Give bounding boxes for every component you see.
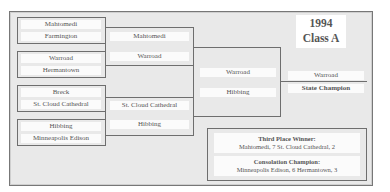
semifinal-team: Mahtomedi bbox=[110, 32, 189, 41]
round1-team: Breck bbox=[21, 88, 101, 97]
consolation-panel: Consolation Champion: Minneapolis Edison… bbox=[214, 156, 360, 176]
round1-team: Hermantown bbox=[21, 66, 101, 75]
round1-team: Farmington bbox=[21, 32, 101, 41]
final-team: Hibbing bbox=[200, 88, 276, 97]
third-place-result: Mahtomedi, 7 St. Cloud Cathedral, 2 bbox=[214, 143, 360, 151]
champion-line bbox=[281, 81, 367, 82]
final-match bbox=[193, 47, 281, 117]
third-place-label: Third Place Winner: bbox=[214, 135, 360, 143]
title-box: 1994 Class A bbox=[296, 15, 346, 48]
round1-team: Minneapolis Edison bbox=[21, 134, 101, 143]
results-box: Third Place Winner: Mahtomedi, 7 St. Clo… bbox=[207, 128, 367, 181]
champion-team: Warroad bbox=[288, 71, 364, 80]
third-place-panel: Third Place Winner: Mahtomedi, 7 St. Clo… bbox=[214, 133, 360, 153]
semifinal-team: Warroad bbox=[110, 52, 189, 61]
round1-team: Warroad bbox=[21, 54, 101, 63]
title-year: 1994 bbox=[296, 16, 346, 31]
title-class: Class A bbox=[296, 31, 346, 46]
round1-team: St. Cloud Cathedral bbox=[21, 100, 101, 109]
semifinal-team: Hibbing bbox=[110, 120, 189, 129]
semifinal-team: St. Cloud Cathedral bbox=[110, 101, 189, 110]
consolation-label: Consolation Champion: bbox=[214, 158, 360, 166]
consolation-result: Minneapolis Edison, 6 Hermantown, 3 bbox=[214, 166, 360, 174]
champion-label: State Champion bbox=[288, 84, 364, 93]
round1-team: Hibbing bbox=[21, 122, 101, 131]
round1-team: Mahtomedi bbox=[21, 20, 101, 29]
final-team: Warroad bbox=[200, 68, 276, 77]
